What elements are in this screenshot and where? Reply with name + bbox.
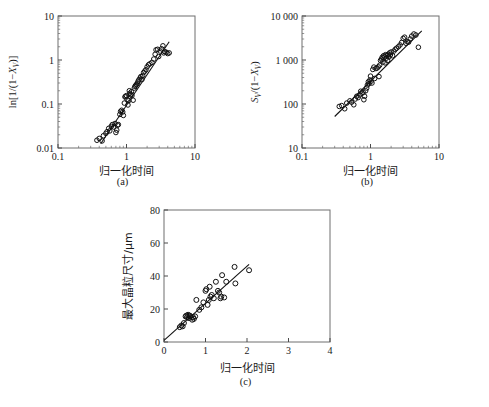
y-tick-label: 1 000 (276, 55, 299, 66)
x-tick-label: 10 (434, 151, 444, 162)
y-tick-label: 10 (44, 11, 54, 22)
panel-c: 01234 020406080 归一化时间 最大晶粒尺寸/μm (c) (118, 196, 373, 407)
y-tick-label: 0.01 (37, 143, 55, 154)
y-tick-label: 1 (49, 55, 54, 66)
x-tick-label: 0 (162, 345, 167, 356)
panel-a: 0.1110 0.010.1110 归一化时间 ln[1/(1−XV)] (a) (0, 0, 245, 195)
panel-b-plot: 0.1110 101001 00010 000 归一化时间 SV/(1−XV) (245, 0, 489, 195)
y-tick-label: 0.1 (42, 99, 55, 110)
panel-b-caption: (b) (245, 176, 489, 187)
x-tick-label: 1 (124, 151, 129, 162)
x-tick-labels: 0.1110 (52, 151, 200, 162)
panel-b: 0.1110 101001 00010 000 归一化时间 SV/(1−XV) … (245, 0, 489, 195)
x-tick-label: 3 (286, 345, 291, 356)
y-axis-title: ln[1/(1−XV)] (7, 56, 21, 108)
panel-c-caption: (c) (118, 376, 373, 387)
x-tick-labels: 01234 (162, 345, 333, 356)
x-tick-label: 2 (245, 345, 250, 356)
x-tick-label: 10 (190, 151, 200, 162)
y-tick-labels: 020406080 (150, 205, 160, 348)
y-axis-title: SV/(1−XV) (249, 61, 263, 103)
y-tick-label: 40 (150, 271, 160, 282)
plot-frame (58, 16, 195, 148)
y-tick-labels: 0.010.1110 (37, 11, 55, 154)
panel-a-caption: (a) (0, 176, 245, 187)
y-tick-label: 60 (150, 238, 160, 249)
figure-container: 0.1110 0.010.1110 归一化时间 ln[1/(1−XV)] (a)… (0, 0, 489, 407)
x-tick-label: 1 (368, 151, 373, 162)
y-tick-labels: 101001 00010 000 (271, 11, 299, 154)
x-axis-title: 归一化时间 (220, 361, 275, 375)
y-axis-title: 最大晶粒尺寸/μm (121, 232, 135, 319)
y-tick-label: 10 000 (271, 11, 299, 22)
y-tick-label: 100 (283, 99, 298, 110)
x-tick-labels: 0.1110 (296, 151, 444, 162)
y-tick-label: 20 (150, 304, 160, 315)
x-tick-label: 4 (328, 345, 333, 356)
y-tick-label: 0 (155, 337, 160, 348)
x-tick-label: 1 (203, 345, 208, 356)
y-tick-label: 80 (150, 205, 160, 216)
panel-a-plot: 0.1110 0.010.1110 归一化时间 ln[1/(1−XV)] (0, 0, 245, 195)
plot-frame (164, 210, 330, 342)
y-tick-label: 10 (288, 143, 298, 154)
